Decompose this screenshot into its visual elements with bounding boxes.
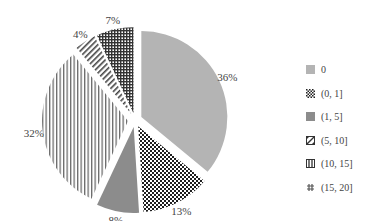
vertical-lines-swatch-icon	[306, 159, 315, 168]
legend-item-10-15: (10, 15]	[306, 152, 376, 176]
legend-label: (10, 15]	[321, 158, 353, 169]
chart-legend: 0 (0, 1] (1, 5] (5, 10] (10, 15]	[306, 58, 376, 199]
slice-percent-label: 7%	[105, 14, 120, 26]
legend-label: (1, 5]	[321, 111, 343, 122]
checkerboard-swatch-icon	[306, 89, 315, 98]
diagonal-hatch-swatch-icon	[306, 136, 315, 145]
legend-label: (15, 20]	[321, 182, 353, 193]
slice-percent-label: 8%	[109, 214, 124, 221]
legend-item-0-1: (0, 1]	[306, 82, 376, 106]
slice-percent-label: 4%	[73, 28, 88, 40]
pie-chart: 36%13%8%32%4%7%	[0, 0, 300, 221]
slice-percent-label: 36%	[217, 71, 237, 83]
grid-dots-swatch-icon	[306, 183, 315, 192]
solid-light-gray-swatch-icon	[306, 65, 315, 74]
legend-item-0: 0	[306, 58, 376, 82]
legend-label: (5, 10]	[321, 135, 348, 146]
slice-percent-label: 32%	[24, 127, 44, 139]
legend-label: (0, 1]	[321, 88, 343, 99]
legend-item-1-5: (1, 5]	[306, 105, 376, 129]
legend-item-15-20: (15, 20]	[306, 176, 376, 200]
solid-dark-gray-swatch-icon	[306, 112, 315, 121]
slice-percent-label: 13%	[171, 205, 191, 217]
legend-label: 0	[321, 64, 326, 75]
legend-item-5-10: (5, 10]	[306, 129, 376, 153]
